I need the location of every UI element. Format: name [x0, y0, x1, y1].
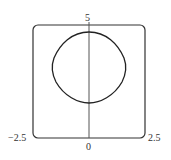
x-min-tick-label: −2.5 [8, 133, 26, 143]
y-max-tick-label: 5 [85, 13, 90, 23]
x-center-tick-label: 0 [86, 142, 91, 152]
x-max-tick-label: 2.5 [148, 133, 161, 143]
